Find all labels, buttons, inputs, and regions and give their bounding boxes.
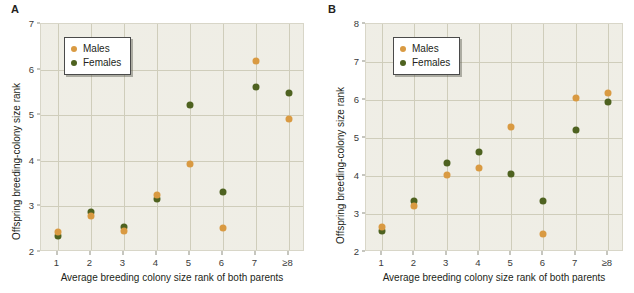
data-point-males (411, 202, 418, 209)
data-point-males (153, 192, 160, 199)
data-point-males (443, 171, 450, 178)
gridline-horizontal (366, 176, 622, 177)
gridline-horizontal (41, 206, 303, 207)
x-tick-label: ≥8 (602, 257, 613, 268)
panel-a-x-axis-title: Average breeding colony size rank of bot… (40, 272, 304, 283)
gridline-vertical (289, 24, 290, 250)
y-tick-mark (362, 213, 365, 214)
x-tick-mark (445, 251, 446, 255)
data-point-males (120, 228, 127, 235)
y-tick-mark (362, 175, 365, 176)
y-tick-label: 3 (18, 200, 34, 211)
gridline-horizontal (366, 214, 622, 215)
x-tick-mark (155, 251, 156, 255)
y-tick-label: 3 (343, 208, 359, 219)
data-point-males (87, 212, 94, 219)
y-tick-label: 2 (18, 246, 34, 257)
females-marker-icon (400, 60, 406, 66)
y-tick-mark (362, 137, 365, 138)
gridline-vertical (608, 24, 609, 250)
legend-label-males: Males (412, 44, 439, 54)
panel-b-x-axis-title: Average breeding colony size rank of bot… (365, 272, 623, 283)
x-tick-label: ≥8 (282, 257, 293, 268)
gridline-horizontal (41, 115, 303, 116)
y-tick-mark (362, 251, 365, 252)
males-marker-icon (71, 46, 77, 52)
data-point-males (285, 116, 292, 123)
y-tick-label: 8 (343, 18, 359, 29)
gridline-vertical (223, 24, 224, 250)
data-point-males (54, 228, 61, 235)
gridline-vertical (382, 24, 383, 250)
x-tick-mark (221, 251, 222, 255)
y-tick-mark (37, 205, 40, 206)
y-tick-mark (362, 99, 365, 100)
data-point-females (443, 159, 450, 166)
gridline-horizontal (366, 100, 622, 101)
y-tick-mark (37, 114, 40, 115)
x-tick-label: 1 (378, 257, 383, 268)
y-tick-label: 6 (343, 94, 359, 105)
legend-item-males: Males (71, 42, 121, 56)
gridline-vertical (58, 24, 59, 250)
x-tick-mark (477, 251, 478, 255)
x-tick-label: 5 (507, 257, 512, 268)
legend-item-females: Females (400, 56, 450, 70)
data-point-females (508, 170, 515, 177)
x-tick-mark (381, 251, 382, 255)
data-point-females (252, 83, 259, 90)
y-tick-mark (37, 68, 40, 69)
x-tick-label: 6 (219, 257, 224, 268)
x-tick-mark (56, 251, 57, 255)
panel-a-label: A (11, 3, 19, 15)
panel-b-label: B (328, 3, 336, 15)
data-point-females (285, 90, 292, 97)
figure-container: A Offspring breeding-colony size rank Av… (0, 0, 634, 293)
panel-b: B Offspring breeding-colony size rank Av… (317, 0, 634, 293)
x-tick-mark (287, 251, 288, 255)
x-tick-mark (606, 251, 607, 255)
x-tick-mark (510, 251, 511, 255)
gridline-vertical (576, 24, 577, 250)
y-tick-label: 4 (343, 170, 359, 181)
data-point-females (572, 127, 579, 134)
gridline-horizontal (41, 161, 303, 162)
legend-item-females: Females (71, 56, 121, 70)
panel-b-legend: Males Females (393, 37, 460, 75)
data-point-females (604, 98, 611, 105)
data-point-males (604, 90, 611, 97)
gridline-vertical (511, 24, 512, 250)
legend-item-males: Males (400, 42, 450, 56)
y-tick-mark (362, 23, 365, 24)
x-tick-label: 2 (411, 257, 416, 268)
gridline-vertical (479, 24, 480, 250)
data-point-males (540, 231, 547, 238)
x-tick-label: 4 (153, 257, 158, 268)
panel-a-legend: Males Females (64, 37, 131, 75)
panel-a: A Offspring breeding-colony size rank Av… (0, 0, 317, 293)
x-tick-mark (122, 251, 123, 255)
y-tick-label: 4 (18, 154, 34, 165)
legend-label-males: Males (83, 44, 110, 54)
gridline-horizontal (366, 138, 622, 139)
data-point-males (572, 95, 579, 102)
x-tick-label: 5 (186, 257, 191, 268)
x-tick-label: 2 (87, 257, 92, 268)
x-tick-mark (413, 251, 414, 255)
x-tick-label: 4 (475, 257, 480, 268)
data-point-males (186, 161, 193, 168)
y-tick-mark (37, 159, 40, 160)
y-tick-mark (37, 251, 40, 252)
y-tick-label: 7 (343, 56, 359, 67)
males-marker-icon (400, 46, 406, 52)
x-tick-mark (89, 251, 90, 255)
y-tick-label: 6 (18, 63, 34, 74)
x-tick-label: 6 (540, 257, 545, 268)
y-tick-label: 7 (18, 18, 34, 29)
x-tick-mark (542, 251, 543, 255)
x-tick-label: 7 (252, 257, 257, 268)
data-point-males (508, 123, 515, 130)
panel-b-y-axis-title: Offspring breeding-colony size rank (335, 87, 346, 244)
y-tick-label: 5 (18, 109, 34, 120)
legend-label-females: Females (412, 58, 450, 68)
